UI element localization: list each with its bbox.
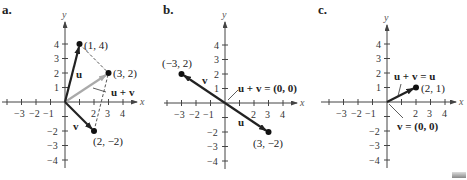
svg-text:−2: −2 (29, 108, 40, 119)
svg-text:−4: −4 (207, 156, 218, 167)
svg-text:2: 2 (54, 68, 59, 79)
vector-label-v: v (73, 120, 79, 132)
vector-label-v: v (202, 74, 208, 86)
svg-text:2: 2 (91, 108, 96, 119)
svg-text:−3: −3 (47, 140, 58, 151)
svg-text:−1: −1 (365, 108, 376, 119)
vector-u (387, 89, 414, 103)
point-3-2 (106, 70, 112, 76)
panel-c: x y −3 −2 −1 2 3 4 4 3 2 1 −2 −3 −4 (321, 12, 464, 168)
svg-text:3: 3 (214, 54, 219, 65)
svg-text:2: 2 (251, 109, 256, 120)
svg-text:−1: −1 (43, 108, 54, 119)
svg-text:3: 3 (376, 53, 381, 64)
vector-v (65, 102, 92, 129)
svg-text:x: x (299, 97, 305, 108)
y-axis: y (61, 9, 67, 168)
point-1-4 (77, 41, 83, 47)
svg-text:−2: −2 (47, 126, 58, 137)
y-axis: y (383, 12, 389, 168)
vector-u (225, 103, 266, 131)
svg-text:3: 3 (427, 108, 432, 119)
svg-text:−2: −2 (207, 127, 218, 138)
svg-text:4: 4 (120, 108, 125, 119)
svg-text:4: 4 (376, 39, 381, 50)
svg-text:2: 2 (214, 69, 219, 80)
vector-label-u: u (76, 68, 82, 80)
point-label: (2, −2) (93, 135, 123, 148)
svg-text:−3: −3 (14, 108, 25, 119)
svg-text:4: 4 (280, 109, 285, 120)
vector-label-sum: u + v (111, 86, 135, 98)
point-label: (3, −2) (253, 137, 283, 150)
svg-text:y: y (221, 9, 227, 20)
point-label: (2, 1) (421, 82, 445, 95)
leader-line (389, 104, 403, 118)
svg-text:2: 2 (413, 108, 418, 119)
svg-text:y: y (383, 12, 389, 23)
svg-text:−1: −1 (203, 109, 214, 120)
x-axis: x (164, 97, 305, 108)
svg-text:−3: −3 (336, 108, 347, 119)
svg-text:−3: −3 (174, 109, 185, 120)
svg-text:1: 1 (376, 82, 381, 93)
point-2-1 (413, 85, 419, 91)
vector-label-sum: u + v = u (394, 70, 435, 82)
vector-label-u: u (238, 116, 244, 128)
vector-diagrams: x y −3 −2 −1 2 3 4 4 3 2 1 −2 −3 − (0, 0, 467, 180)
svg-text:1: 1 (214, 83, 219, 94)
x-axis: x (321, 96, 464, 107)
x-axis-label: x (139, 96, 145, 107)
point-label: (1, 4) (84, 39, 108, 52)
vector-label-sum: u + v = (0, 0) (238, 82, 297, 95)
leader-line (228, 90, 238, 100)
panel-b: x y −3 −2 −1 2 3 4 4 3 2 1 −2 −3 −4 (162, 9, 305, 169)
svg-text:−3: −3 (369, 140, 380, 151)
point-2-neg2 (91, 128, 97, 134)
svg-text:4: 4 (442, 108, 447, 119)
svg-text:−4: −4 (369, 155, 380, 166)
svg-text:2: 2 (376, 68, 381, 79)
svg-text:−4: −4 (47, 155, 58, 166)
y-axis-label: y (61, 9, 67, 20)
point-label: (−3, 2) (162, 57, 192, 70)
vector-label-v: v = (0, 0) (397, 120, 438, 133)
svg-text:1: 1 (54, 82, 59, 93)
panel-a: x y −3 −2 −1 2 3 4 4 3 2 1 −2 −3 − (2, 9, 145, 168)
point-3-neg2 (266, 129, 272, 135)
svg-text:−2: −2 (351, 108, 362, 119)
svg-text:3: 3 (54, 53, 59, 64)
point-label: (3, 2) (113, 67, 137, 80)
svg-text:−2: −2 (369, 126, 380, 137)
svg-text:4: 4 (214, 40, 219, 51)
svg-text:3: 3 (105, 108, 110, 119)
svg-text:−2: −2 (189, 109, 200, 120)
corner-mark (452, 172, 466, 178)
svg-text:4: 4 (54, 39, 59, 50)
svg-text:3: 3 (265, 109, 270, 120)
svg-text:−3: −3 (207, 141, 218, 152)
svg-text:x: x (458, 96, 464, 107)
point-neg3-2 (179, 71, 185, 77)
